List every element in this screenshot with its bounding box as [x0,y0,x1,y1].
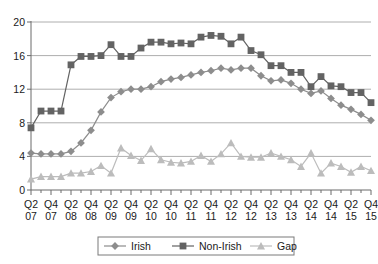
x-axis-year-label-12: 10 [145,210,157,222]
x-axis-quarter-label-28: Q2 [304,198,318,210]
datapoint-gap-8 [107,169,115,176]
datapoint-irish-31 [337,101,345,109]
x-axis-quarter-label-34: Q4 [364,198,378,210]
x-axis-year-label-0: 07 [25,210,37,222]
datapoint-non-irish-20 [228,40,235,47]
datapoint-non-irish-18 [208,32,215,39]
legend-label-non-irish: Non-Irish [199,240,242,252]
datapoint-gap-17 [197,152,205,159]
datapoint-non-irish-29 [318,73,325,80]
datapoint-non-irish-15 [178,40,185,47]
datapoint-non-irish-30 [328,82,335,89]
datapoint-irish-15 [177,74,185,82]
datapoint-gap-24 [267,149,275,156]
datapoint-irish-10 [127,85,135,93]
datapoint-non-irish-21 [238,34,245,41]
datapoint-gap-20 [227,139,235,146]
datapoint-gap-33 [357,162,365,169]
legend-label-irish: Irish [131,240,151,252]
datapoint-non-irish-19 [218,33,225,40]
x-axis-year-label-26: 13 [285,210,297,222]
x-axis-year-label-4: 08 [65,210,77,222]
datapoint-gap-34 [367,167,375,174]
datapoint-non-irish-23 [258,51,265,58]
datapoint-gap-10 [127,152,135,159]
x-axis-quarter-label-26: Q4 [284,198,298,210]
datapoint-gap-6 [87,168,95,175]
datapoint-non-irish-8 [108,41,115,48]
x-axis-quarter-label-4: Q2 [64,198,78,210]
datapoint-non-irish-17 [198,34,205,41]
datapoint-gap-31 [337,162,345,169]
x-axis-year-label-30: 14 [325,210,337,222]
datapoint-non-irish-28 [308,83,315,90]
x-axis-quarter-label-22: Q4 [244,198,258,210]
datapoint-gap-30 [327,159,335,166]
x-axis-labels-group: Q207Q407Q208Q408Q209Q409Q210Q410Q211Q411… [24,198,378,222]
datapoint-irish-26 [287,79,295,87]
x-axis-year-label-8: 09 [105,210,117,222]
x-axis-quarter-label-30: Q4 [324,198,338,210]
x-axis-year-label-20: 12 [225,210,237,222]
x-ticks-group [31,190,371,195]
y-axis-label-0: 0 [19,184,25,196]
x-axis-year-label-16: 11 [186,210,197,222]
x-axis-quarter-label-16: Q2 [184,198,198,210]
x-axis-quarter-label-14: Q4 [164,198,178,210]
datapoint-gap-32 [347,168,355,175]
legend-marker-non-irish [180,243,187,250]
y-axis-label-12: 12 [13,83,25,95]
x-axis-year-label-24: 13 [265,210,277,222]
x-axis-quarter-label-24: Q2 [264,198,278,210]
datapoint-irish-32 [347,105,355,113]
datapoint-non-irish-2 [48,108,55,115]
x-axis-quarter-label-8: Q2 [104,198,118,210]
datapoint-irish-0 [27,149,35,157]
datapoint-non-irish-11 [138,45,145,52]
x-axis-year-label-10: 09 [125,210,137,222]
x-axis-year-label-2: 07 [45,210,57,222]
datapoint-irish-28 [307,90,315,98]
datapoint-non-irish-16 [188,40,195,47]
datapoint-non-irish-34 [368,99,375,106]
datapoint-irish-16 [187,71,195,79]
datapoint-non-irish-0 [28,124,35,131]
datapoint-irish-11 [137,85,145,93]
y-axis-label-8: 8 [19,117,25,129]
x-axis-quarter-label-2: Q4 [44,198,58,210]
datapoint-non-irish-9 [118,53,125,60]
datapoint-irish-33 [357,111,365,119]
x-axis-quarter-label-10: Q4 [124,198,138,210]
datapoint-non-irish-7 [98,52,105,59]
datapoint-non-irish-33 [358,89,365,96]
x-axis-year-label-18: 11 [206,210,217,222]
datapoint-non-irish-14 [168,40,175,47]
legend: IrishNon-IrishGap [98,237,297,255]
datapoint-irish-8 [107,94,115,102]
datapoint-non-irish-32 [348,89,355,96]
series-line-non-irish [31,35,371,127]
y-axis-label-20: 20 [13,16,25,28]
datapoint-non-irish-6 [88,53,95,60]
x-axis-quarter-label-20: Q2 [224,198,238,210]
datapoint-non-irish-1 [38,108,45,115]
datapoint-irish-18 [207,67,215,75]
datapoint-gap-18 [207,157,215,164]
datapoint-gap-9 [117,144,125,151]
datapoint-gap-7 [97,162,105,169]
x-axis-quarter-label-32: Q2 [344,198,358,210]
x-axis-year-label-32: 15 [345,210,357,222]
datapoint-non-irish-25 [278,62,285,69]
x-axis-year-label-14: 10 [165,210,177,222]
datapoint-non-irish-12 [148,39,155,46]
datapoint-irish-14 [167,75,175,83]
x-axis-year-label-6: 08 [85,210,97,222]
datapoint-gap-28 [307,149,315,156]
datapoint-non-irish-22 [248,47,255,54]
datapoint-irish-19 [217,64,225,72]
datapoint-irish-13 [157,78,165,86]
datapoint-non-irish-10 [128,53,135,60]
x-axis-year-label-34: 15 [365,210,377,222]
series-gap [27,139,375,183]
datapoint-non-irish-5 [78,53,85,60]
